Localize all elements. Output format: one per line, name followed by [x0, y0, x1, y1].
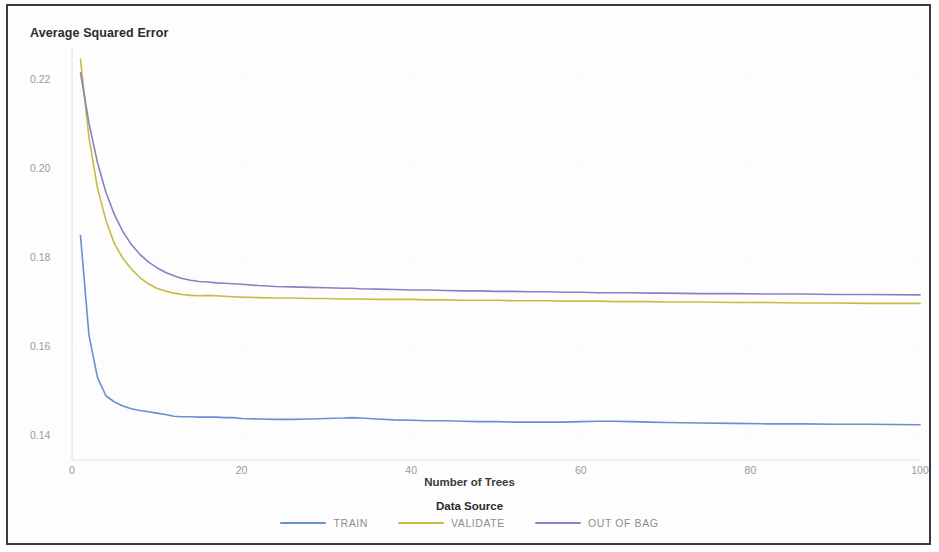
x-axis-title: Number of Trees [10, 476, 929, 488]
x-tick-label: 80 [745, 464, 757, 476]
series-line-out-of-bag [80, 73, 920, 295]
legend-title: Data Source [10, 500, 929, 512]
x-tick-label: 20 [236, 464, 248, 476]
chart-container: Average Squared Error 0.220.200.180.160.… [10, 8, 929, 542]
series-line-validate [80, 59, 920, 303]
legend-item-out-of-bag[interactable]: OUT OF BAG [535, 517, 659, 529]
x-axis-tick-labels: 020406080100 [69, 464, 929, 476]
legend-label: OUT OF BAG [588, 517, 659, 529]
y-tick-label: 0.16 [30, 340, 51, 352]
x-tick-label: 40 [405, 464, 417, 476]
legend-swatch-icon [398, 522, 444, 524]
legend-item-validate[interactable]: VALIDATE [398, 517, 505, 529]
gridlines [72, 46, 920, 460]
legend-item-train[interactable]: TRAIN [280, 517, 368, 529]
chart-legend: Data Source TRAINVALIDATEOUT OF BAG [10, 500, 929, 529]
y-axis-tick-labels: 0.220.200.180.160.14 [30, 73, 51, 442]
legend-swatch-icon [535, 522, 581, 524]
chart-plot-area: 0.220.200.180.160.14 020406080100 [10, 8, 929, 478]
legend-label: TRAIN [333, 517, 368, 529]
axis-lines [72, 46, 920, 460]
legend-swatch-icon [280, 522, 326, 524]
series-line-train [80, 236, 920, 425]
legend-item-list: TRAINVALIDATEOUT OF BAG [10, 517, 929, 529]
y-tick-label: 0.20 [30, 162, 51, 174]
data-series [80, 59, 920, 424]
y-tick-label: 0.14 [30, 429, 51, 441]
x-tick-label: 100 [911, 464, 929, 476]
y-tick-label: 0.22 [30, 73, 51, 85]
legend-label: VALIDATE [451, 517, 505, 529]
x-tick-label: 60 [575, 464, 587, 476]
y-tick-label: 0.18 [30, 251, 51, 263]
x-tick-label: 0 [69, 464, 75, 476]
scanned-page-frame: Average Squared Error 0.220.200.180.160.… [0, 0, 939, 552]
